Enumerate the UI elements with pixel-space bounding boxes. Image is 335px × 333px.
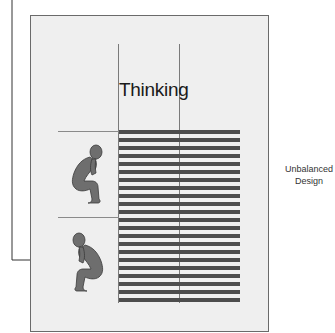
grid-row-line-top — [58, 131, 119, 132]
text-line-stripe — [119, 266, 240, 270]
text-line-stripe — [119, 226, 240, 230]
text-line-stripe — [119, 170, 240, 174]
text-line-stripe — [119, 202, 240, 206]
text-line-stripe — [119, 130, 240, 134]
caption-line-2: Design — [279, 175, 335, 187]
text-line-stripe — [119, 282, 240, 286]
page-title: Thinking — [119, 79, 188, 101]
text-line-stripe — [119, 194, 240, 198]
text-line-stripe — [119, 242, 240, 246]
thinker-figure-mirrored-icon — [67, 231, 107, 293]
thinker-figure-icon — [68, 143, 108, 205]
caption-line-1: Unbalanced — [279, 163, 335, 175]
text-line-stripe — [119, 274, 240, 278]
text-line-stripe — [119, 146, 240, 150]
text-line-stripe — [119, 234, 240, 238]
text-line-stripe — [119, 186, 240, 190]
text-line-stripe — [119, 290, 240, 294]
text-line-stripe — [119, 298, 240, 302]
text-line-stripe — [119, 250, 240, 254]
caption-label: Unbalanced Design — [279, 163, 335, 187]
text-line-stripe — [119, 162, 240, 166]
text-block-stripes — [119, 130, 240, 303]
text-line-stripe — [119, 178, 240, 182]
text-line-stripe — [119, 154, 240, 158]
text-line-stripe — [119, 258, 240, 262]
text-line-stripe — [119, 138, 240, 142]
grid-row-line-middle — [58, 217, 119, 218]
text-line-stripe — [119, 210, 240, 214]
text-line-stripe — [119, 218, 240, 222]
